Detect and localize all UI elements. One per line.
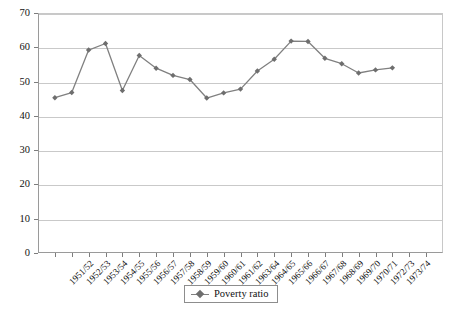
x-axis-tick-mark xyxy=(122,253,123,257)
x-axis-tick-mark xyxy=(376,253,377,257)
y-axis-tick-mark xyxy=(34,82,38,83)
y-axis-tick-label: 10 xyxy=(0,214,30,224)
x-axis-tick-mark xyxy=(359,253,360,257)
y-axis-tick-mark xyxy=(34,13,38,14)
x-axis-tick-mark xyxy=(190,253,191,257)
x-axis-tick-mark xyxy=(342,253,343,257)
legend-marker-icon xyxy=(191,290,209,298)
x-axis-tick-mark xyxy=(224,253,225,257)
x-axis-tick-mark xyxy=(291,253,292,257)
gridline xyxy=(39,14,442,15)
chart-legend: Poverty ratio xyxy=(184,285,278,303)
x-axis-tick-mark xyxy=(426,253,427,257)
y-axis-tick-mark xyxy=(34,150,38,151)
x-axis-tick-mark xyxy=(207,253,208,257)
gridline xyxy=(39,48,442,49)
poverty-ratio-line-chart: 010203040506070 1951/521952/531953/54195… xyxy=(0,0,453,314)
plot-area xyxy=(38,13,443,253)
x-axis-tick-mark xyxy=(409,253,410,257)
x-axis-tick-mark xyxy=(325,253,326,257)
y-axis-tick-mark xyxy=(34,253,38,254)
x-axis-tick-mark xyxy=(139,253,140,257)
y-axis-tick-label: 40 xyxy=(0,111,30,121)
gridline xyxy=(39,83,442,84)
gridline xyxy=(39,185,442,186)
y-axis-tick-label: 50 xyxy=(0,77,30,87)
y-axis-tick-mark xyxy=(34,184,38,185)
gridline xyxy=(39,151,442,152)
y-axis-tick-mark xyxy=(34,219,38,220)
gridline xyxy=(39,117,442,118)
legend-label-poverty-ratio: Poverty ratio xyxy=(214,288,269,300)
x-axis-tick-mark xyxy=(308,253,309,257)
y-axis-tick-label: 30 xyxy=(0,145,30,155)
x-axis-tick-mark xyxy=(274,253,275,257)
x-axis-tick-mark xyxy=(89,253,90,257)
x-axis-tick-mark xyxy=(241,253,242,257)
x-axis-tick-mark xyxy=(156,253,157,257)
y-axis-tick-label: 60 xyxy=(0,42,30,52)
y-axis-tick-label: 20 xyxy=(0,179,30,189)
x-axis-tick-mark xyxy=(257,253,258,257)
x-axis-tick-mark xyxy=(55,253,56,257)
y-axis-tick-label: 0 xyxy=(0,248,30,258)
gridline xyxy=(39,220,442,221)
y-axis-tick-mark xyxy=(34,47,38,48)
x-axis-tick-mark xyxy=(392,253,393,257)
x-axis-tick-mark xyxy=(173,253,174,257)
y-axis-tick-label: 70 xyxy=(0,8,30,18)
y-axis-tick-mark xyxy=(34,116,38,117)
x-axis-tick-mark xyxy=(106,253,107,257)
x-axis-tick-mark xyxy=(72,253,73,257)
